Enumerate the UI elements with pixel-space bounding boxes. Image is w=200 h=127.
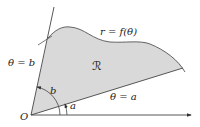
label-region: ℛ [92, 59, 102, 73]
polar-region-diagram: r = f(θ) ℛ θ = b θ = a b a O [0, 0, 200, 127]
label-ray-a: θ = a [110, 91, 137, 102]
label-ray-b: θ = b [8, 57, 35, 68]
label-angle-a: a [70, 100, 76, 111]
region-r [31, 27, 183, 115]
label-origin: O [20, 111, 28, 122]
label-curve: r = f(θ) [100, 26, 137, 37]
angle-arc-a [65, 104, 67, 115]
label-angle-b: b [50, 85, 56, 96]
